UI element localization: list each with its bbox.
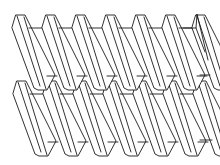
upper-fin-row xyxy=(12,14,220,90)
lower-fin-row xyxy=(13,81,220,156)
fin-drawing xyxy=(0,0,220,165)
fin-structure-diagram xyxy=(0,0,220,165)
